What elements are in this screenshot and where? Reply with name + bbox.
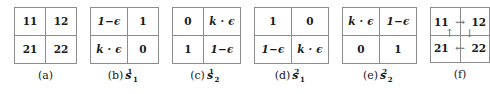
panel-b-caption: (b)s11 bbox=[108, 70, 142, 81]
arrow-down-icon: ↓ bbox=[465, 28, 474, 39]
panel-d-caption: (d)s21 bbox=[275, 70, 309, 81]
table-row: 1 1−ϵ bbox=[173, 36, 241, 64]
arrow-left-icon: ← bbox=[455, 42, 465, 54]
table-row: 11 12 bbox=[15, 8, 77, 36]
panel-e: k · ϵ 1−ϵ 0 1 (e)s22 bbox=[342, 7, 417, 81]
cycle-node-bottom-left: 21 bbox=[434, 43, 449, 54]
matrix-e-cell-r1c0: 0 bbox=[343, 36, 380, 64]
panel-b-caption-label: (b) bbox=[108, 69, 124, 82]
table-row: 1−ϵ k · ϵ bbox=[255, 36, 329, 64]
matrix-d-cell-r0c1: 0 bbox=[292, 8, 329, 36]
panel-d-symbol-subscript: 1 bbox=[300, 75, 305, 84]
matrix-e-cell-r0c0: k · ϵ bbox=[343, 8, 380, 36]
table-row: 1−ϵ 1 bbox=[91, 8, 159, 36]
panel-c-caption: (c)s12 bbox=[190, 70, 223, 81]
table-row: 0 1 bbox=[343, 36, 417, 64]
panel-d-symbol-superscript: 2 bbox=[295, 67, 300, 76]
panel-c-caption-label: (c) bbox=[190, 69, 205, 82]
cycle-node-top-right: 12 bbox=[471, 17, 486, 28]
table-row: 1 0 bbox=[255, 8, 329, 36]
matrix-a: 11 12 21 22 bbox=[14, 7, 77, 64]
panel-b-symbol-superscript: 1 bbox=[128, 67, 133, 76]
matrix-a-cell-r1c1: 22 bbox=[46, 36, 77, 64]
panel-d-caption-label: (d) bbox=[275, 69, 291, 82]
panel-a: 11 12 21 22 (a) bbox=[14, 7, 77, 81]
matrix-d: 1 0 1−ϵ k · ϵ bbox=[254, 7, 329, 64]
panel-f: 11 12 21 22 → ↓ ← ↑ (f) bbox=[430, 7, 490, 80]
matrix-b-cell-r1c0: k · ϵ bbox=[91, 36, 128, 64]
matrix-c-cell-r1c1: 1−ϵ bbox=[204, 36, 241, 64]
matrix-b-cell-r1c1: 0 bbox=[128, 36, 159, 64]
cycle-node-bottom-right: 22 bbox=[471, 43, 486, 54]
matrix-c: 0 k · ϵ 1 1−ϵ bbox=[172, 7, 241, 64]
cycle-node-top-left: 11 bbox=[434, 17, 449, 28]
panel-e-symbol-subscript: 2 bbox=[388, 75, 393, 84]
matrix-a-cell-r0c0: 11 bbox=[15, 8, 46, 36]
panel-e-caption-label: (e) bbox=[363, 69, 378, 82]
matrix-b-cell-r0c1: 1 bbox=[128, 8, 159, 36]
panel-e-symbol-superscript: 2 bbox=[382, 67, 387, 76]
matrix-c-cell-r0c0: 0 bbox=[173, 8, 204, 36]
panel-a-caption-label: (a) bbox=[38, 69, 53, 82]
matrix-d-cell-r1c1: k · ϵ bbox=[292, 36, 329, 64]
matrix-c-cell-r1c0: 1 bbox=[173, 36, 204, 64]
matrix-b-cell-r0c0: 1−ϵ bbox=[91, 8, 128, 36]
matrix-e-cell-r1c1: 1 bbox=[380, 36, 417, 64]
panel-c: 0 k · ϵ 1 1−ϵ (c)s12 bbox=[172, 7, 241, 81]
arrow-up-icon: ↑ bbox=[445, 28, 454, 39]
panel-a-caption: (a) bbox=[38, 70, 53, 81]
matrix-a-cell-r0c1: 12 bbox=[46, 8, 77, 36]
panel-f-caption: (f) bbox=[454, 69, 467, 80]
matrix-a-cell-r1c0: 21 bbox=[15, 36, 46, 64]
panel-d: 1 0 1−ϵ k · ϵ (d)s21 bbox=[254, 7, 329, 81]
cycle-diagram-f: 11 12 21 22 → ↓ ← ↑ bbox=[430, 7, 490, 63]
table-row: 21 22 bbox=[15, 36, 77, 64]
table-row: k · ϵ 1−ϵ bbox=[343, 8, 417, 36]
panel-f-caption-label: (f) bbox=[454, 68, 467, 81]
panel-e-caption: (e)s22 bbox=[363, 70, 396, 81]
table-row: 0 k · ϵ bbox=[173, 8, 241, 36]
panel-c-symbol-subscript: 2 bbox=[214, 75, 219, 84]
arrow-right-icon: → bbox=[455, 16, 465, 28]
matrix-d-cell-r1c0: 1−ϵ bbox=[255, 36, 292, 64]
matrix-b: 1−ϵ 1 k · ϵ 0 bbox=[90, 7, 159, 64]
grid-horizontal-divider bbox=[431, 35, 489, 36]
panel-b-symbol-subscript: 1 bbox=[133, 75, 138, 84]
table-row: k · ϵ 0 bbox=[91, 36, 159, 64]
matrix-e: k · ϵ 1−ϵ 0 1 bbox=[342, 7, 417, 64]
matrix-e-cell-r0c1: 1−ϵ bbox=[380, 8, 417, 36]
matrix-c-cell-r0c1: k · ϵ bbox=[204, 8, 241, 36]
panel-b: 1−ϵ 1 k · ϵ 0 (b)s11 bbox=[90, 7, 159, 81]
matrix-d-cell-r0c0: 1 bbox=[255, 8, 292, 36]
